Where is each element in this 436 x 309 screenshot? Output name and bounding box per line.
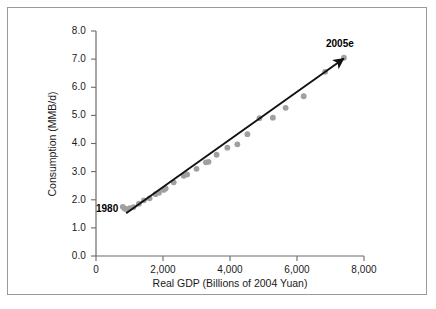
y-tick-label: 4.0 (56, 137, 86, 148)
y-axis-ticks (91, 31, 96, 256)
y-tick-label: 8.0 (56, 25, 86, 36)
scatter-point (301, 93, 307, 99)
chart-figure: 8.0 7.0 6.0 5.0 4.0 3.0 2.0 1.0 0.0 0 2,… (0, 0, 436, 309)
x-tick-label: 4,000 (207, 264, 253, 275)
x-tick-label: 0 (73, 264, 119, 275)
x-tick-label: 6,000 (274, 264, 320, 275)
y-axis-title: Consumption (MMB/d) (46, 54, 58, 234)
trend-line (126, 59, 344, 214)
x-tick-label: 8,000 (341, 264, 387, 275)
y-tick-label: 3.0 (56, 166, 86, 177)
axis-lines (96, 31, 364, 256)
scatter-point (194, 166, 200, 172)
y-tick-label: 0.0 (56, 250, 86, 261)
x-tick-label: 2,000 (140, 264, 186, 275)
scatter-point (270, 115, 276, 121)
plot-canvas (0, 0, 436, 309)
scatter-point (234, 141, 240, 147)
scatter-point (206, 159, 212, 165)
x-axis-ticks (96, 256, 364, 261)
y-tick-label: 6.0 (56, 81, 86, 92)
scatter-points (120, 55, 347, 212)
y-tick-label: 7.0 (56, 53, 86, 64)
x-axis-title: Real GDP (Billions of 2004 Yuan) (96, 277, 364, 289)
y-tick-label: 2.0 (56, 194, 86, 205)
y-tick-label: 5.0 (56, 109, 86, 120)
y-tick-label: 1.0 (56, 222, 86, 233)
scatter-point (245, 131, 251, 137)
annotation-start-year: 1980 (96, 203, 118, 214)
annotation-end-year: 2005e (326, 38, 354, 49)
scatter-point (224, 145, 230, 151)
scatter-point (214, 152, 220, 158)
scatter-point (283, 105, 289, 111)
